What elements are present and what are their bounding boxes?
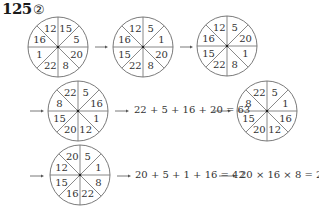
wheel-value: 5: [83, 87, 89, 98]
equation-sum-1: 22 + 5 + 16 + 20 = 63: [134, 104, 250, 115]
wheel-value: 15: [202, 48, 215, 59]
wheel-value: 22: [129, 60, 142, 71]
arrow-icon: [115, 110, 129, 113]
wheel-value: 1: [158, 34, 164, 45]
wheel-value: 20: [66, 151, 79, 162]
wheel-value: 12: [268, 124, 281, 135]
wheel-value: 12: [55, 162, 68, 173]
wheel-value: 16: [66, 188, 79, 199]
wheel-value: 12: [213, 22, 226, 33]
wheel-center: [79, 174, 82, 177]
wheel-value: 8: [148, 60, 154, 71]
arrow-icon: [180, 46, 193, 49]
arrow-icon: [117, 175, 131, 178]
wheel-value: 8: [56, 98, 62, 109]
wheel-value: 22: [253, 87, 266, 98]
wheel-value: 5: [73, 34, 79, 45]
wheel-value: 15: [118, 49, 131, 60]
wheel-value: 22: [81, 188, 94, 199]
wheel-center: [57, 46, 60, 49]
wheel-3: 1252018221516: [197, 16, 257, 76]
wheel-value: 16: [33, 34, 46, 45]
wheel-value: 22: [44, 60, 57, 71]
wheel-value: 20: [70, 49, 83, 60]
wheel-center: [142, 46, 145, 49]
arrow-icon: [30, 175, 44, 178]
equation-sum-2: 20 + 5 + 1 + 16 = 42: [135, 169, 245, 180]
wheel-value: 5: [232, 22, 238, 33]
wheel-value: 8: [95, 177, 101, 188]
wheel-value: 1: [242, 48, 248, 59]
wheel-value: 5: [148, 23, 154, 34]
wheel-value: 16: [90, 98, 103, 109]
wheel-value: 12: [79, 124, 92, 135]
wheel-center: [266, 110, 269, 113]
wheel-value: 16: [118, 34, 131, 45]
wheel-value: 22: [64, 87, 77, 98]
wheel-value: 20: [253, 124, 266, 135]
wheel-4: 2251611220158: [48, 81, 108, 141]
equation-product: 20 × 16 × 8 = 2560: [240, 169, 319, 180]
wheel-value: 16: [202, 33, 215, 44]
wheel-value: 15: [53, 113, 66, 124]
wheel-value: 1: [282, 98, 288, 109]
wheel-value: 5: [85, 151, 91, 162]
wheel-value: 1: [95, 162, 101, 173]
wheel-value: 20: [64, 124, 77, 135]
wheel-value: 20: [239, 33, 252, 44]
wheel-value: 16: [279, 113, 292, 124]
wheel-value: 12: [44, 23, 57, 34]
wheel-value: 5: [272, 87, 278, 98]
wheel-6: 2051822161512: [50, 145, 110, 205]
wheel-value: 15: [59, 23, 72, 34]
wheel-value: 8: [63, 60, 69, 71]
wheel-value: 15: [55, 177, 68, 188]
wheel-value: 8: [232, 59, 238, 70]
wheel-1: 1215520822116: [28, 17, 88, 77]
wheel-value: 20: [155, 49, 168, 60]
arrow-icon: [95, 46, 108, 49]
wheel-value: 1: [93, 113, 99, 124]
wheel-2: 1251208221516: [113, 17, 173, 77]
arrow-icon: [30, 110, 44, 113]
wheel-value: 22: [213, 59, 226, 70]
wheel-center: [77, 110, 80, 113]
wheel-value: 1: [36, 49, 42, 60]
wheel-center: [226, 45, 229, 48]
wheel-value: 12: [129, 23, 142, 34]
